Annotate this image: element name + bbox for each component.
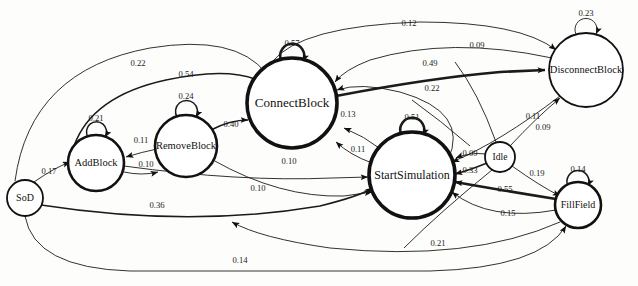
edge-label-startsimulation-connectblock: 0.22 [424,83,439,93]
edge-removeblock-addblock [126,149,157,157]
selfloop-label-removeblock: 0.24 [178,91,194,101]
edge-label-sod-addblock: 0.17 [41,166,57,176]
edge-disconnectblock-connectblock [335,47,552,82]
node-label-removeblock: RemoveBlock [156,140,217,151]
edge-label-startsimulation-connectblock: 0.13 [340,109,355,119]
selfloop-label-connectblock: 0.57 [284,38,300,48]
node-idle[interactable]: Idle [485,142,515,172]
node-fillfield[interactable]: FillField [555,182,601,228]
edge-label-fillfield-startsimulation: 0.21 [430,238,445,248]
node-sod[interactable]: SoD [7,180,43,216]
edge-connectblock-disconnectblock-012 [272,22,556,62]
node-startsimulation[interactable]: StartSimulation [369,132,455,218]
edge-label-sod-connectblock: 0.22 [130,58,145,68]
node-addblock[interactable]: AddBlock [68,135,124,191]
edge-label-disconnectblock-startsimulation: 0.11 [526,111,541,121]
edge-label-removeblock-addblock: 0.11 [134,135,149,145]
node-label-fillfield: FillField [561,199,595,210]
selfloop-label-disconnectblock: 0.23 [578,8,593,18]
state-transition-diagram: SoD AddBlock RemoveBlock ConnectBlock St… [0,0,638,286]
edge-fillfield-startsimulation-021 [232,222,560,252]
edge-sod-startsimulation [41,188,373,217]
edge-label-idle-fillfield: 0.19 [529,168,544,178]
edge-label-addblock-removeblock: 0.10 [138,159,153,169]
edge-label-removeblock-startsimulation: 0.10 [250,183,265,193]
node-label-idle: Idle [493,152,508,162]
node-layer: SoD AddBlock RemoveBlock ConnectBlock St… [7,33,623,228]
edge-label-addblock-startsimulation: 0.10 [281,156,296,166]
node-removeblock[interactable]: RemoveBlock [155,115,217,177]
edge-label-sod-startsimulation: 0.36 [149,200,165,210]
edge-label-removeblock-connectblock: 0.40 [223,119,238,129]
selfloop-label-addblock: 0.21 [88,113,103,123]
node-connectblock[interactable]: ConnectBlock [247,58,337,148]
selfloop-disconnectblock [575,18,597,34]
edge-sod-fillfield [25,216,566,271]
diagram-canvas: SoD AddBlock RemoveBlock ConnectBlock St… [0,0,638,286]
node-label-startsimulation: StartSimulation [374,168,449,182]
node-label-connectblock: ConnectBlock [255,95,330,110]
selfloop-label-fillfield: 0.14 [570,164,586,174]
edge-connectblock-disconnectblock-049 [336,70,545,96]
edge-label-sod-fillfield: 0.14 [232,255,248,265]
node-label-sod: SoD [16,192,34,203]
node-disconnectblock[interactable]: DisconnectBlock [549,33,623,107]
edge-label-disconnectblock-connectblock: 0.09 [469,40,484,50]
edge-label-startsimulation-connectblock: 0.11 [351,144,366,154]
edge-label-idle-startsimulation: 0.33 [462,165,477,175]
edge-label-connectblock-disconnectblock: 0.12 [401,18,416,28]
node-label-addblock: AddBlock [74,157,118,168]
edge-addblock-startsimulation [124,166,368,179]
edge-addblock-removeblock [124,172,158,174]
edge-label-fillfield-startsimulation: 0.15 [500,208,515,218]
edge-label-connectblock-disconnectblock: 0.49 [422,58,437,68]
edge-label-idle-disconnectblock: 0.09 [535,122,550,132]
edge-label-idle-startsimulation: 0.09 [462,148,477,158]
node-label-disconnectblock: DisconnectBlock [550,64,623,75]
edge-label-addblock-connectblock: 0.54 [178,69,194,79]
selfloop-label-startsimulation: 0.51 [404,112,419,122]
edge-label-fillfield-startsimulation: 0.55 [497,184,512,194]
